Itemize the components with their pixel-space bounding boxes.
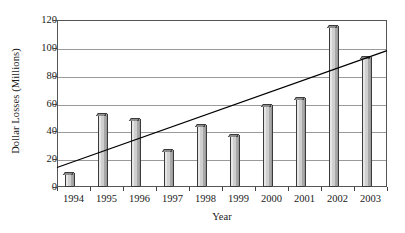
x-tick-mark <box>321 187 322 191</box>
x-axis-tick-labels: 1994199519961997199819992000200120022003 <box>57 193 387 207</box>
x-tick-label: 2003 <box>351 193 391 205</box>
x-tick-mark <box>57 187 58 191</box>
x-axis-title: Year <box>57 210 387 223</box>
x-tick-mark <box>387 187 388 191</box>
x-tick-mark <box>123 187 124 191</box>
trendline <box>57 20 387 187</box>
y-axis-ticks: 020406080100120 <box>20 20 57 187</box>
x-tick-mark <box>255 187 256 191</box>
x-tick-mark <box>156 187 157 191</box>
trendline-path <box>57 51 387 168</box>
x-tick-mark <box>354 187 355 191</box>
x-axis-ticks <box>57 187 387 192</box>
x-tick-mark <box>222 187 223 191</box>
bar-chart-figure: Dollar Losses (Millions) 020406080100120… <box>0 0 405 233</box>
x-tick-mark <box>189 187 190 191</box>
x-tick-mark <box>288 187 289 191</box>
x-tick-mark <box>90 187 91 191</box>
